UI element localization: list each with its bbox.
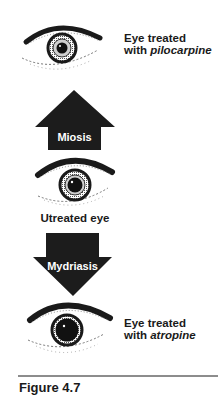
eye-untreated-icon bbox=[38, 161, 112, 205]
mydriasis-label: Mydriasis bbox=[33, 260, 112, 272]
atropine-label-line1: Eye treated bbox=[124, 317, 196, 329]
pilocarpine-label-line2: with pilocarpine bbox=[124, 44, 212, 56]
eye-atropine-icon bbox=[28, 305, 110, 352]
figure-caption: Figure 4.7 bbox=[19, 380, 80, 395]
pilocarpine-label: Eye treated with pilocarpine bbox=[124, 32, 212, 56]
untreated-label: Utreated eye bbox=[30, 212, 120, 224]
atropine-label-line2: with atropine bbox=[124, 329, 196, 341]
atropine-label: Eye treated with atropine bbox=[124, 317, 196, 341]
label-prefix: with bbox=[124, 329, 150, 341]
eye-pilocarpine-icon bbox=[22, 28, 100, 69]
drug-name: atropine bbox=[150, 329, 195, 341]
pilocarpine-label-line1: Eye treated bbox=[124, 32, 212, 44]
drug-name: pilocarpine bbox=[150, 44, 211, 56]
label-prefix: with bbox=[124, 44, 150, 56]
miosis-label: Miosis bbox=[48, 131, 101, 143]
